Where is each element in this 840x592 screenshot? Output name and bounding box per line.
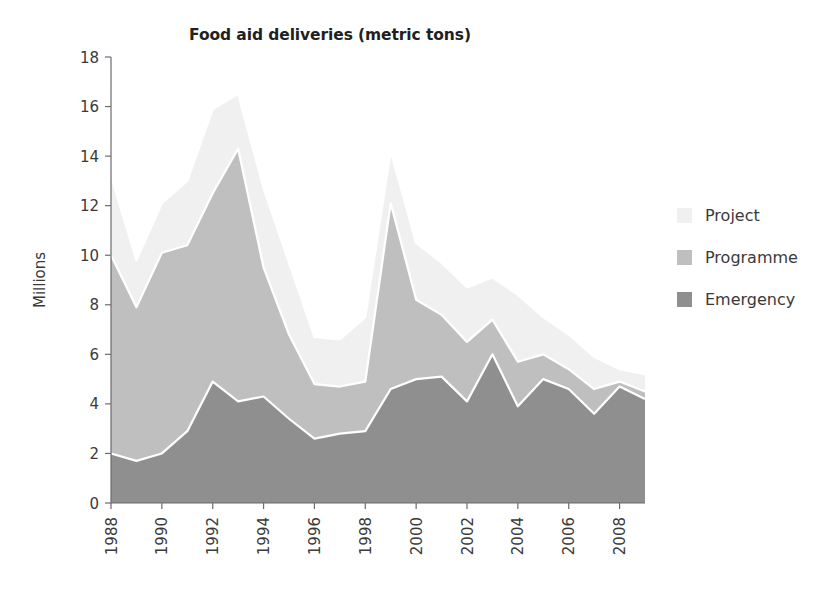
legend-swatch	[677, 250, 692, 265]
legend-swatch	[677, 208, 692, 223]
y-tick-label: 8	[89, 296, 99, 314]
y-axis: 024681012141618	[80, 49, 111, 513]
y-tick-label: 10	[80, 247, 99, 265]
y-axis-title: Millions	[31, 252, 49, 308]
y-tick-label: 2	[89, 445, 99, 463]
x-tick-label: 2000	[408, 517, 426, 555]
x-tick-label: 1994	[255, 517, 273, 555]
y-tick-label: 0	[89, 495, 99, 513]
y-tick-label: 16	[80, 98, 99, 116]
chart-container: Food aid deliveries (metric tons) 024681…	[0, 0, 840, 592]
legend-label: Emergency	[705, 290, 795, 309]
x-axis: 1988199019921994199619982000200220042006…	[103, 503, 630, 555]
y-tick-label: 6	[89, 346, 99, 364]
y-tick-label: 18	[80, 49, 99, 67]
y-axis-title-label: Millions	[31, 252, 49, 308]
x-tick-label: 1988	[103, 517, 121, 555]
x-tick-label: 1990	[153, 517, 171, 555]
y-tick-label: 14	[80, 148, 99, 166]
legend-label: Project	[705, 206, 760, 225]
legend-swatch	[677, 292, 692, 307]
legend-label: Programme	[705, 248, 798, 267]
area-chart-plot: 024681012141618 198819901992199419961998…	[0, 0, 840, 592]
chart-legend: ProjectProgrammeEmergency	[677, 206, 798, 309]
y-tick-label: 4	[89, 395, 99, 413]
x-tick-label: 1992	[204, 517, 222, 555]
x-tick-label: 2008	[611, 517, 629, 555]
y-tick-label: 12	[80, 197, 99, 215]
x-tick-label: 1998	[357, 517, 375, 555]
x-tick-label: 2006	[560, 517, 578, 555]
x-tick-label: 2004	[509, 517, 527, 555]
x-tick-label: 1996	[306, 517, 324, 555]
x-tick-label: 2002	[459, 517, 477, 555]
